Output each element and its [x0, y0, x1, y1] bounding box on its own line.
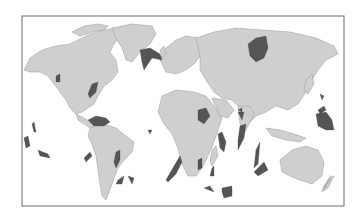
world-map: signature	[0, 0, 360, 218]
region-southern-ocean-b	[222, 186, 232, 198]
region-karoo	[198, 158, 202, 170]
